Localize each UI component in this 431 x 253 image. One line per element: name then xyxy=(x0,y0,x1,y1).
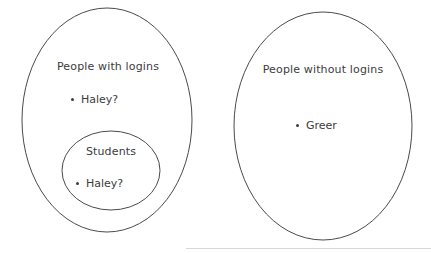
diagram-canvas: People with logins Haley? Students Haley… xyxy=(0,0,431,253)
people-with-logins-title: People with logins xyxy=(46,60,170,73)
bullet-icon xyxy=(296,124,299,127)
students-member-haley: Haley? xyxy=(76,177,123,190)
people-without-logins-title: People without logins xyxy=(256,63,390,76)
people-without-logins-member-greer: Greer xyxy=(296,119,337,132)
set-diagram-shapes xyxy=(0,0,431,253)
bullet-icon xyxy=(71,98,74,101)
member-label: Haley? xyxy=(81,93,118,106)
people-with-logins-member-haley: Haley? xyxy=(71,93,118,106)
member-label: Greer xyxy=(306,119,337,132)
member-label: Haley? xyxy=(86,177,123,190)
students-title: Students xyxy=(71,145,151,158)
students-ellipse xyxy=(62,131,160,210)
bullet-icon xyxy=(76,182,79,185)
